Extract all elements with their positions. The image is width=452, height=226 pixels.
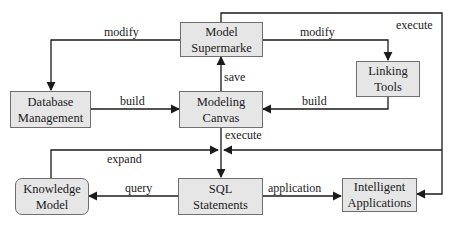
node-label: Database — [28, 94, 74, 110]
node-database-management: Database Management — [10, 91, 91, 128]
edge-label-build-left: build — [120, 94, 145, 108]
node-linking-tools: Linking Tools — [356, 61, 420, 97]
node-label: Model — [205, 24, 238, 40]
edge-label-application: application — [268, 181, 321, 195]
node-knowledge-model: Knowledge Model — [15, 178, 89, 215]
edge-label-expand: expand — [107, 152, 142, 166]
edge-label-build-right: build — [302, 94, 327, 108]
edge-label-execute-canvas: execute — [225, 128, 262, 142]
node-label: Model — [36, 197, 69, 213]
edge-label-modify-left: modify — [104, 25, 139, 39]
edge-label-save: save — [224, 70, 245, 84]
node-label: Linking — [368, 63, 408, 79]
node-intelligent-applications: Intelligent Applications — [342, 178, 417, 212]
edge-label-query: query — [125, 181, 152, 195]
node-modeling-canvas: Modeling Canvas — [179, 91, 263, 128]
node-label: Knowledge — [23, 181, 81, 197]
node-label: Statements — [193, 197, 248, 213]
node-label: SQL — [209, 181, 233, 197]
edge-modify-linking — [262, 40, 388, 60]
edge-label-execute-top: execute — [396, 18, 433, 32]
edge-label-modify-right: modify — [300, 25, 335, 39]
node-label: Modeling — [197, 94, 246, 110]
edge-modify-database — [51, 40, 180, 90]
node-label: Management — [18, 110, 83, 126]
node-model-supermarket: Model Supermarke — [180, 22, 263, 57]
node-label: Tools — [374, 79, 402, 95]
node-label: Applications — [348, 195, 412, 211]
node-label: Intelligent — [354, 179, 405, 195]
node-label: Supermarke — [191, 40, 251, 56]
node-sql-statements: SQL Statements — [178, 178, 263, 215]
node-label: Canvas — [203, 110, 240, 126]
